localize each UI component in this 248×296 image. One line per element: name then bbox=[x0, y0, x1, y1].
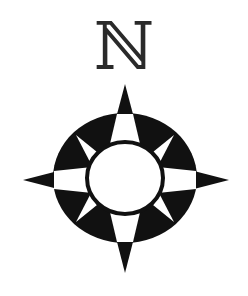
east-spike bbox=[194, 171, 229, 189]
north-spike bbox=[116, 84, 134, 118]
inner-ring bbox=[87, 142, 163, 214]
south-spike bbox=[116, 238, 134, 273]
compass-rose-icon bbox=[0, 0, 248, 296]
west-spike bbox=[23, 171, 58, 189]
